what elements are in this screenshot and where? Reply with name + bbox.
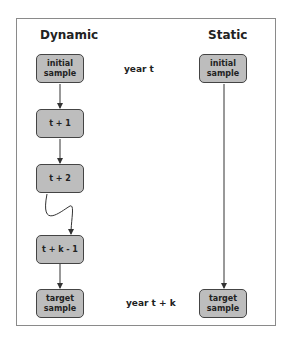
node-label: initial [210,59,236,68]
node-label: sample [207,69,239,78]
static-initial-sample-node: initialsample [199,54,247,83]
node-label: t + k - 1 [42,245,78,255]
node-label: target [46,294,74,303]
node-label: sample [44,304,76,313]
dynamic-initial-sample-node: initialsample [36,54,84,83]
node-label: initial [47,59,73,68]
arrow-t2-to-tk1 [46,194,73,234]
dynamic-t-plus-k-minus-1-node: t + k - 1 [36,235,84,264]
dynamic-target-sample-node: targetsample [36,289,84,318]
node-label: t + 1 [49,119,71,129]
node-label: sample [207,304,239,313]
node-label: sample [44,69,76,78]
node-label: t + 2 [49,174,71,184]
node-label: target [209,294,237,303]
dynamic-t-plus-1-node: t + 1 [36,109,84,138]
dynamic-t-plus-2-node: t + 2 [36,164,84,193]
static-target-sample-node: targetsample [199,289,247,318]
